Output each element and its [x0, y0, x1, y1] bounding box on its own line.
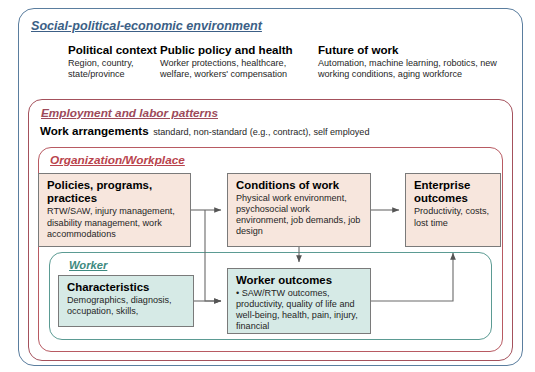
column-body-political-context: Region, country, state/province	[68, 58, 164, 81]
box-body-enterprise-outcomes: Productivity, costs, lost time	[414, 206, 493, 228]
box-body-characteristics: Demographics, diagnosis, occupation, ski…	[67, 295, 186, 317]
box-enterprise-outcomes: Enterprise outcomes Productivity, costs,…	[405, 173, 501, 247]
column-heading-future-of-work: Future of work	[318, 43, 528, 56]
box-conditions-of-work: Conditions of work Physical work environ…	[227, 173, 371, 247]
column-body-public-policy-and-health: Worker protections, healthcare, welfare,…	[160, 58, 312, 81]
box-body-policies-programs-practices: RTW/SAW, injury management, disability m…	[47, 206, 183, 239]
box-title-policies-programs-practices: Policies, programs, practices	[47, 179, 183, 205]
box-body-conditions-of-work: Physical work environment, psychosocial …	[236, 193, 363, 237]
box-title-worker-outcomes: Worker outcomes	[236, 274, 363, 287]
column-heading-political-context: Political context	[68, 43, 164, 56]
box-policies-programs-practices: Policies, programs, practices RTW/SAW, i…	[38, 173, 191, 247]
box-body-worker-outcomes: • SAW/RTW outcomes, productivity, qualit…	[236, 288, 363, 332]
box-title-conditions-of-work: Conditions of work	[236, 179, 363, 192]
column-heading-public-policy-and-health: Public policy and health	[160, 43, 312, 56]
box-title-enterprise-outcomes: Enterprise outcomes	[414, 179, 493, 205]
frame-title-social-political-economic-environment: Social-political-economic environment	[31, 19, 262, 33]
diagram-canvas: Social-political-economic environment Em…	[0, 0, 535, 372]
frame-title-organization-workplace: Organization/Workplace	[50, 153, 185, 167]
box-characteristics: Characteristics Demographics, diagnosis,…	[58, 275, 194, 327]
column-future-of-work: Future of work Automation, machine learn…	[318, 43, 528, 81]
work-arrangements-label: Work arrangements	[40, 124, 149, 137]
work-arrangements-line: Work arrangements standard, non-standard…	[40, 121, 370, 139]
box-worker-outcomes: Worker outcomes • SAW/RTW outcomes, prod…	[227, 268, 371, 334]
frame-title-employment-and-labor-patterns: Employment and labor patterns	[41, 106, 218, 120]
frame-title-worker: Worker	[69, 259, 107, 271]
column-political-context: Political context Region, country, state…	[68, 43, 164, 81]
box-title-characteristics: Characteristics	[67, 281, 186, 294]
column-public-policy-and-health: Public policy and health Worker protecti…	[160, 43, 312, 81]
work-arrangements-detail: standard, non-standard (e.g., contract),…	[153, 127, 369, 137]
column-body-future-of-work: Automation, machine learning, robotics, …	[318, 58, 528, 81]
